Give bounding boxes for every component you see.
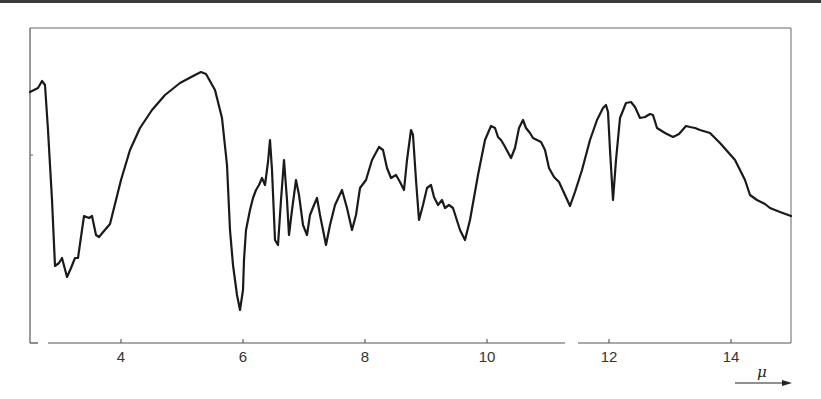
spectrum-line	[30, 72, 791, 310]
x-tick-label-4: 4	[117, 348, 125, 365]
x-tick-label-8: 8	[361, 348, 369, 365]
x-tick-label-6: 6	[239, 348, 247, 365]
x-axis-unit-label: μ	[757, 363, 767, 381]
arrow-head-icon	[782, 380, 792, 386]
x-tick-label-10: 10	[479, 348, 496, 365]
x-tick-label-12: 12	[601, 348, 618, 365]
x-tick-label-14: 14	[723, 348, 740, 365]
x-ticks	[121, 339, 731, 343]
spectrum-chart	[0, 0, 821, 399]
